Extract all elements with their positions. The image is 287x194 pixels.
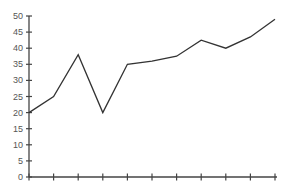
y-tick-label: 30 [13,75,23,85]
series-line [29,19,275,112]
y-axis: 05101520253035404550 [13,11,32,182]
data-series [29,19,275,112]
line-chart: 05101520253035404550 [0,0,287,194]
y-tick-label: 40 [13,43,23,53]
y-tick-label: 5 [18,156,23,166]
y-tick-label: 20 [13,108,23,118]
x-axis [29,174,277,181]
y-tick-label: 45 [13,27,23,37]
y-tick-label: 25 [13,92,23,102]
y-tick-label: 15 [13,124,23,134]
y-tick-label: 0 [18,172,23,182]
y-tick-label: 35 [13,59,23,69]
y-tick-label: 50 [13,11,23,21]
y-tick-label: 10 [13,140,23,150]
